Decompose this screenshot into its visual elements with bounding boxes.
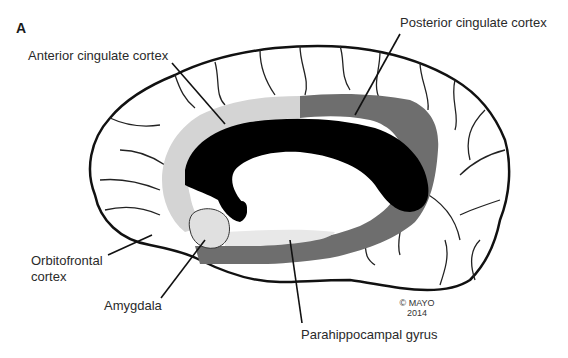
label-amygdala: Amygdala: [104, 298, 162, 314]
label-anterior-cingulate: Anterior cingulate cortex: [28, 48, 168, 64]
label-posterior-cingulate: Posterior cingulate cortex: [400, 15, 547, 31]
copyright-line1: © MAYO: [392, 298, 442, 308]
label-orbitofrontal-line2: cortex: [31, 269, 103, 285]
copyright-notice: © MAYO 2014: [392, 298, 442, 318]
label-orbitofrontal: Orbitofrontal cortex: [31, 253, 103, 285]
copyright-line2: 2014: [392, 308, 442, 318]
label-orbitofrontal-line1: Orbitofrontal: [31, 253, 103, 269]
label-parahippocampal: Parahippocampal gyrus: [301, 327, 438, 343]
